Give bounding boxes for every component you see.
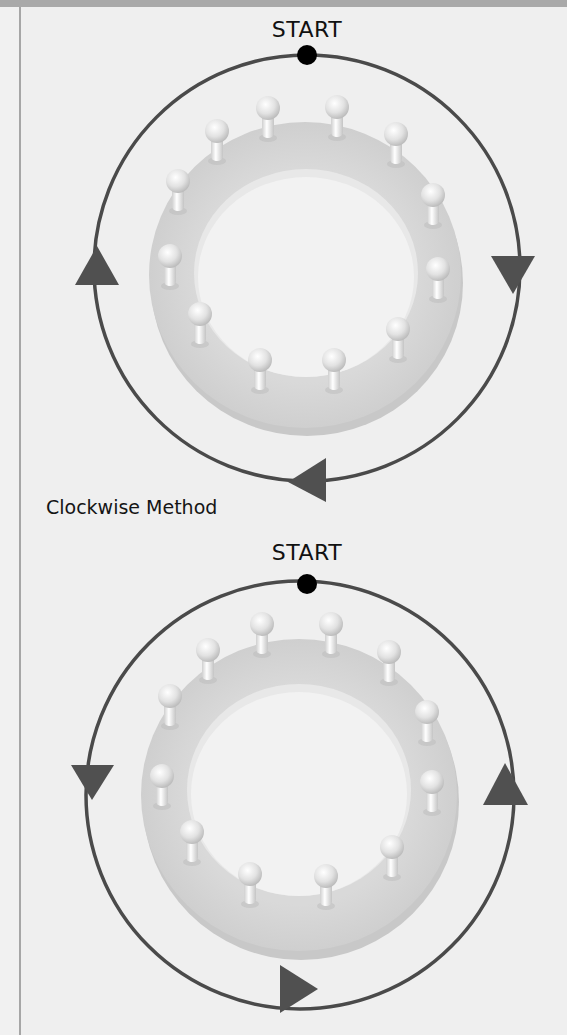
arrow-down-icon	[71, 765, 114, 800]
arrow-left-icon	[288, 458, 326, 502]
arrow-right-icon	[280, 965, 318, 1013]
start-label: START	[247, 540, 367, 565]
start-dot	[297, 45, 317, 65]
arrow-down-icon	[491, 256, 535, 294]
start-dot	[297, 574, 317, 594]
arrow-up-icon	[483, 763, 528, 805]
start-label: START	[247, 17, 367, 42]
loom-ring-hole	[198, 177, 414, 377]
loom-diagram-counterclockwise	[75, 45, 535, 502]
loom-ring-hole	[191, 692, 407, 896]
method-caption: Clockwise Method	[46, 496, 217, 518]
loom-diagram-clockwise	[71, 574, 528, 1013]
arrow-up-icon	[75, 246, 119, 285]
